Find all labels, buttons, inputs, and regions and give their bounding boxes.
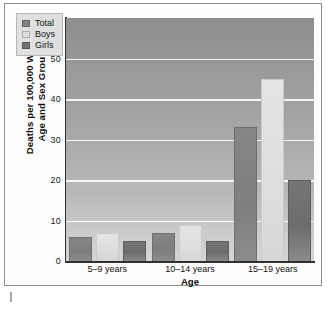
x-axis-tick-label: 10–14 years — [165, 264, 215, 274]
page-margin-tick — [10, 292, 12, 302]
bar-girls-2 — [206, 241, 229, 261]
x-axis-line — [65, 261, 315, 263]
legend-label: Total — [35, 18, 54, 29]
y-axis-tick-label: 30 — [51, 135, 61, 145]
x-axis-tick-label: 15–19 years — [248, 264, 298, 274]
bar-total-1 — [69, 237, 92, 261]
legend-label: Boys — [35, 29, 55, 40]
bar-total-2 — [152, 233, 175, 261]
legend-label: Girls — [35, 40, 54, 51]
bar-boys-2 — [179, 225, 202, 261]
bar-total-3 — [234, 127, 257, 261]
gridline — [66, 59, 314, 61]
legend-swatch-icon — [22, 20, 30, 27]
bar-girls-1 — [123, 241, 146, 261]
legend-item-girls: Girls — [22, 40, 55, 51]
x-axis-tick-label: 5–9 years — [88, 264, 128, 274]
bar-girls-3 — [288, 180, 311, 261]
bar-boys-1 — [96, 233, 119, 261]
legend-item-total: Total — [22, 18, 55, 29]
figure-frame: Deaths per 100,000 Within Age and Sex Gr… — [4, 3, 322, 286]
chart-legend: TotalBoysGirls — [16, 13, 63, 56]
y-axis-tick-label: 0 — [56, 256, 61, 266]
plot-area — [66, 18, 314, 261]
y-axis-tick-label: 10 — [51, 216, 61, 226]
y-axis-tick-label: 40 — [51, 94, 61, 104]
x-axis-title: Age — [66, 276, 314, 287]
legend-item-boys: Boys — [22, 29, 55, 40]
legend-swatch-icon — [22, 31, 30, 38]
y-axis-tick-label: 20 — [51, 175, 61, 185]
legend-swatch-icon — [22, 42, 30, 49]
bar-boys-3 — [261, 79, 284, 261]
